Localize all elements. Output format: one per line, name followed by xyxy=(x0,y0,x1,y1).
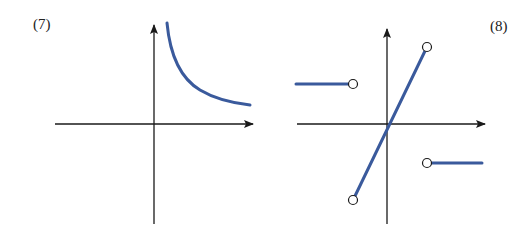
hyperbola-curve xyxy=(167,23,250,105)
open-circle-top xyxy=(423,43,432,52)
figure-8-label: (8) xyxy=(490,18,508,35)
open-circle-bottom xyxy=(349,196,358,205)
figure-8 xyxy=(296,29,485,224)
diagram-canvas xyxy=(0,0,529,244)
figure-7-label: (7) xyxy=(33,16,51,33)
open-circle-right xyxy=(423,159,432,168)
open-circle-left xyxy=(349,80,358,89)
figure-7 xyxy=(55,23,253,224)
